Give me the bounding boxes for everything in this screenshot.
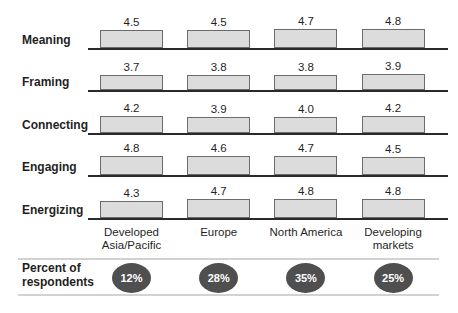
- footer-bottom-divider: [18, 294, 439, 296]
- bar-value-label: 3.8: [187, 60, 250, 74]
- category-label: Developed Asia/Pacific: [88, 226, 176, 252]
- bar-value-label: 4.0: [274, 102, 337, 116]
- bar-value-label: 4.8: [362, 14, 425, 28]
- bar-value-label: 3.9: [187, 102, 250, 116]
- bar: [100, 201, 163, 218]
- capability-by-region-bar-chart: Meaning4.54.54.74.8Framing3.73.83.83.9Co…: [0, 0, 458, 313]
- row-baseline: [88, 218, 448, 220]
- row-label: Meaning: [22, 33, 71, 47]
- bar: [187, 156, 250, 175]
- bar: [187, 75, 250, 90]
- bar: [274, 75, 337, 90]
- footer-top-divider: [18, 258, 439, 260]
- bar: [362, 116, 425, 133]
- bar-value-label: 4.5: [187, 15, 250, 29]
- bar: [274, 117, 337, 133]
- row-baseline: [88, 48, 448, 50]
- percent-value: 25%: [382, 272, 404, 284]
- percent-oval: 28%: [199, 263, 238, 293]
- bar-value-label: 4.2: [362, 101, 425, 115]
- category-label: North America: [262, 226, 350, 239]
- percent-oval: 35%: [286, 263, 325, 293]
- bar-value-label: 3.7: [100, 60, 163, 74]
- bar-value-label: 3.8: [274, 60, 337, 74]
- bar: [274, 156, 337, 175]
- row-label: Energizing: [22, 203, 83, 217]
- percent-value: 28%: [208, 272, 230, 284]
- bar-value-label: 4.8: [100, 141, 163, 155]
- bar: [274, 199, 337, 218]
- row-baseline: [88, 133, 448, 135]
- percent-oval: 12%: [112, 263, 151, 293]
- bar: [187, 30, 250, 48]
- bar: [362, 74, 425, 90]
- row-label: Engaging: [22, 160, 77, 174]
- percent-oval: 25%: [374, 263, 413, 293]
- bar: [362, 199, 425, 218]
- row-label: Connecting: [22, 118, 88, 132]
- bar-value-label: 4.6: [187, 141, 250, 155]
- footer-label: Percent of respondents: [22, 261, 117, 289]
- bar: [187, 199, 250, 218]
- bar-value-label: 4.8: [274, 184, 337, 198]
- bar: [100, 75, 163, 90]
- category-label: Developing markets: [349, 226, 437, 252]
- bar-value-label: 4.5: [100, 15, 163, 29]
- row-baseline: [88, 175, 448, 177]
- bar-value-label: 4.7: [274, 141, 337, 155]
- bar-value-label: 4.5: [362, 142, 425, 156]
- bar: [187, 117, 250, 133]
- bar: [362, 29, 425, 48]
- bar-value-label: 4.2: [100, 101, 163, 115]
- bar: [100, 30, 163, 48]
- row-label: Framing: [22, 75, 69, 89]
- percent-value: 12%: [120, 272, 142, 284]
- bar: [274, 29, 337, 48]
- bar: [362, 157, 425, 175]
- bar-value-label: 4.8: [362, 184, 425, 198]
- bar-value-label: 3.9: [362, 59, 425, 73]
- category-label: Europe: [175, 226, 263, 239]
- bar-value-label: 4.7: [274, 14, 337, 28]
- row-baseline: [88, 90, 448, 92]
- percent-value: 35%: [295, 272, 317, 284]
- bar-value-label: 4.7: [187, 184, 250, 198]
- bar-value-label: 4.3: [100, 186, 163, 200]
- bar: [100, 116, 163, 133]
- bar: [100, 156, 163, 175]
